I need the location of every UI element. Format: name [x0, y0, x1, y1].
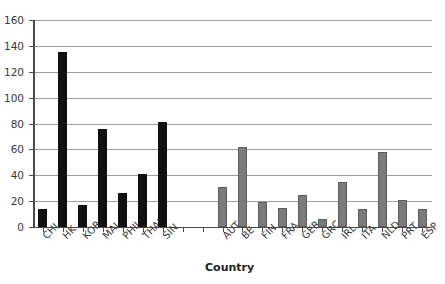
x-axis-tick — [203, 228, 204, 232]
bar-nld — [378, 152, 387, 227]
bar-thai — [138, 174, 147, 227]
y-axis-tick-label: 0 — [0, 222, 24, 233]
gridline — [33, 149, 432, 150]
y-axis-tick-label: 100 — [0, 93, 24, 104]
bar-chart: 020406080100120140160CHIHKKORMALPHILTHAI… — [0, 0, 445, 284]
gridline — [33, 175, 432, 176]
bar-esp — [418, 209, 427, 227]
y-axis-tick-label: 80 — [0, 119, 24, 130]
bar-chi — [38, 209, 47, 227]
bar-kor — [78, 205, 87, 227]
x-axis-tick — [183, 228, 184, 232]
gridline — [33, 124, 432, 125]
y-axis-tick-label: 60 — [0, 144, 24, 155]
y-axis-line — [33, 20, 35, 228]
gridline — [33, 98, 432, 99]
gridline — [33, 46, 432, 47]
bar-fra — [278, 208, 287, 227]
y-axis-tick-label: 20 — [0, 196, 24, 207]
bar-prt — [398, 200, 407, 227]
bar-hk — [58, 52, 67, 227]
bar-aut — [218, 187, 227, 227]
bar-be — [238, 147, 247, 227]
bar-ita — [358, 209, 367, 227]
bar-irl — [338, 182, 347, 227]
bar-mal — [98, 129, 107, 227]
gridline — [33, 20, 432, 21]
bar-fin — [258, 202, 267, 227]
y-axis-tick-label: 40 — [0, 170, 24, 181]
bar-sin — [158, 122, 167, 227]
y-axis-tick-label: 140 — [0, 41, 24, 52]
gridline — [33, 201, 432, 202]
x-axis-title: Country — [205, 261, 254, 274]
y-axis-tick-label: 160 — [0, 15, 24, 26]
y-axis-tick-label: 120 — [0, 67, 24, 78]
bar-phil — [118, 193, 127, 227]
bar-ger — [298, 195, 307, 227]
gridline — [33, 72, 432, 73]
